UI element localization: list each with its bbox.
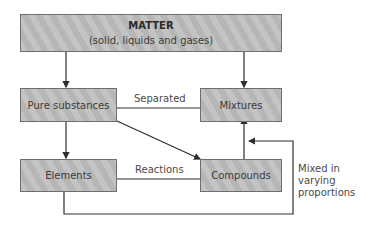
node-compounds: Compounds [200,159,282,192]
mixtures-label: Mixtures [220,100,263,111]
pure-substances-label: Pure substances [28,100,110,111]
node-pure-substances: Pure substances [20,88,117,122]
matter-subtitle: (solid, liquids and gases) [89,35,213,46]
edge-label-separated: Separated [134,93,186,105]
compounds-label: Compounds [211,170,271,181]
node-mixtures: Mixtures [200,88,282,122]
edge-label-mixed-1: Mixed in [298,163,340,175]
node-matter: MATTER (solid, liquids and gases) [20,14,282,52]
edge-label-mixed-3: proportions [298,187,355,199]
node-elements: Elements [20,159,117,192]
matter-title: MATTER [128,20,173,31]
edge-label-reactions: Reactions [135,164,184,176]
edge-label-mixed-2: varying [298,175,336,187]
elements-label: Elements [45,170,92,181]
